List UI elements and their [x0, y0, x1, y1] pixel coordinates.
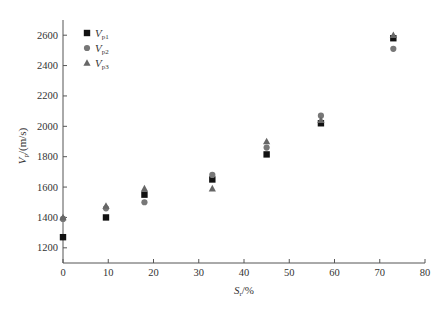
y-tick-label: 1400 [37, 212, 58, 223]
data-point [263, 138, 270, 145]
data-point [264, 144, 270, 150]
series-v-p3 [59, 31, 397, 220]
scatter-chart: 1200140016001800200022002400260001020304… [0, 0, 445, 309]
data-point [263, 151, 269, 157]
legend-label: Vp2 [95, 42, 109, 56]
y-tick-label: 2200 [37, 90, 58, 101]
data-point [103, 214, 109, 220]
series-v-p1 [60, 35, 397, 240]
series-v-p2 [60, 46, 397, 222]
x-tick-label: 20 [148, 267, 159, 278]
x-tick-label: 60 [329, 267, 340, 278]
x-tick-label: 10 [103, 267, 114, 278]
x-tick-label: 80 [420, 267, 431, 278]
legend-label: Vp1 [95, 27, 109, 41]
legend-marker-square [84, 30, 90, 36]
data-point [102, 202, 109, 209]
y-tick-label: 1800 [37, 151, 58, 162]
y-tick-label: 1600 [37, 182, 58, 193]
data-points [59, 31, 397, 240]
y-tick-label: 2000 [37, 121, 58, 132]
data-point [141, 191, 147, 197]
legend: Vp1Vp2Vp3 [83, 27, 109, 71]
data-point [390, 31, 397, 38]
x-tick-label: 50 [284, 267, 295, 278]
data-point [209, 185, 216, 192]
data-point [209, 172, 215, 178]
x-tick-label: 40 [239, 267, 250, 278]
x-axis-title: Sr/% [234, 284, 254, 298]
y-tick-label: 2600 [37, 30, 58, 41]
legend-marker-circle [84, 45, 90, 51]
data-point [60, 234, 66, 240]
x-tick-label: 30 [194, 267, 205, 278]
x-tick-label: 0 [60, 267, 65, 278]
y-tick-label: 1200 [37, 242, 58, 253]
x-tick-label: 70 [375, 267, 386, 278]
legend-marker-triangle [83, 59, 90, 66]
y-axis-title: Vp/(m/s) [16, 127, 30, 164]
data-point [390, 46, 396, 52]
y-tick-label: 2400 [37, 60, 58, 71]
data-point [141, 185, 148, 192]
data-point [141, 199, 147, 205]
legend-label: Vp3 [95, 57, 109, 71]
